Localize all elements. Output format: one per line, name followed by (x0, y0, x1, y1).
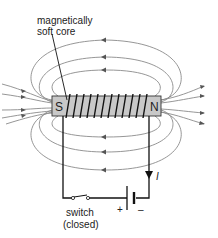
core-label-line1: magnetically (37, 15, 93, 26)
core-label-line2: soft core (37, 26, 76, 37)
north-pole-label: N (150, 100, 159, 114)
electromagnet-diagram: S N magnetically soft core switch (close… (0, 0, 218, 238)
field-lines-bottom (31, 110, 181, 173)
field-lines-right (161, 85, 205, 125)
current-arrow-icon (145, 171, 153, 179)
field-lines-left (2, 84, 52, 124)
south-pole-label: S (55, 100, 63, 114)
battery (127, 186, 134, 210)
switch-label-line2: (closed) (63, 219, 99, 230)
battery-plus-label: + (117, 204, 123, 215)
switch (71, 195, 89, 200)
switch-label-line1: switch (66, 207, 94, 218)
battery-minus-label: – (138, 204, 144, 215)
circuit (63, 116, 149, 198)
field-lines-top (31, 38, 181, 103)
current-label: I (156, 171, 159, 182)
